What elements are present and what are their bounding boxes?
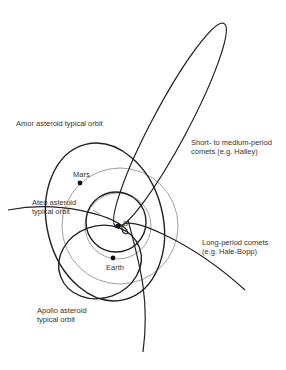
- amor-label: Amor asteroid typical orbit: [16, 119, 103, 128]
- orbit-diagram: Amor asteroid typical orbit Mars Aten as…: [0, 0, 286, 370]
- long-comet-label-line1: Long-period comets: [202, 238, 268, 247]
- mars-label: Mars: [73, 170, 90, 179]
- short-period-comet-orbit: [100, 15, 240, 235]
- apollo-label-line2: typical orbit: [37, 315, 75, 324]
- long-comet-label-line2: (e.g. Hale-Bopp): [202, 247, 257, 256]
- amor-orbit: [29, 130, 180, 313]
- mars-marker: [78, 181, 83, 186]
- aten-label-line2: typical orbit: [32, 207, 70, 216]
- short-comet-label-line2: comets (e.g. Halley): [191, 147, 258, 156]
- earth-label: Earth: [106, 263, 124, 272]
- short-comet-label-line1: Short- to medium-period: [191, 138, 272, 147]
- apollo-orbit: [48, 214, 152, 310]
- long-period-comet-tail: [128, 220, 145, 352]
- apollo-label-line1: Apollo asteroid: [37, 306, 87, 315]
- sun-marker: [115, 223, 120, 228]
- earth-marker: [111, 256, 116, 261]
- aten-label-line1: Aten asteroid: [32, 198, 76, 207]
- sun-label: S: [123, 219, 128, 228]
